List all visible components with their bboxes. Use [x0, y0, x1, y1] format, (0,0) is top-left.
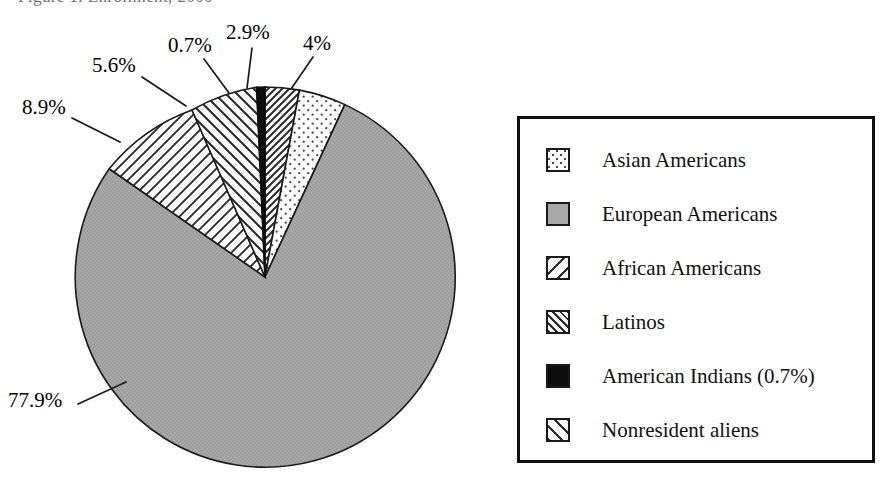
legend-label-asian-americans: Asian Americans — [602, 148, 746, 173]
legend-list: Asian Americans European Americans Afric… — [520, 119, 872, 460]
legend-label-nonresident-aliens: Nonresident aliens — [602, 418, 759, 443]
legend-label-american-indians: American Indians (0.7%) — [602, 364, 815, 389]
leader-line-latinos — [247, 48, 252, 88]
legend-label-latinos: Latinos — [602, 310, 665, 335]
legend-item-latinos: Latinos — [520, 295, 872, 349]
swatch-dotted-icon — [546, 148, 570, 172]
swatch-backslash-hatch-icon — [546, 256, 570, 280]
leader-line-african — [142, 77, 186, 106]
swatch-dense-forward-hatch-icon — [546, 310, 570, 334]
legend-label-african-americans: African Americans — [602, 256, 761, 281]
label-american-indians-percent: 0.7% — [168, 35, 212, 56]
legend-item-american-indians: American Indians (0.7%) — [520, 349, 872, 403]
label-asian-percent: 4% — [303, 33, 331, 54]
legend-item-african-americans: African Americans — [520, 241, 872, 295]
legend-item-nonresident-aliens: Nonresident aliens — [520, 403, 872, 457]
label-latinos-percent: 2.9% — [226, 22, 270, 43]
leader-line-american-indians — [204, 59, 229, 93]
label-european-percent: 77.9% — [8, 390, 62, 411]
label-nonresident-percent: 8.9% — [22, 97, 66, 118]
swatch-solid-gray-icon — [546, 202, 570, 226]
swatch-medium-forward-hatch-icon — [546, 418, 570, 442]
figure-container: Figure 1. Enrollment, 2000 — [0, 0, 893, 482]
legend: Asian Americans European Americans Afric… — [517, 116, 875, 463]
legend-item-asian-americans: Asian Americans — [520, 133, 872, 187]
legend-label-european-americans: European Americans — [602, 202, 778, 227]
leader-line-asian — [291, 57, 313, 89]
legend-item-european-americans: European Americans — [520, 187, 872, 241]
label-african-percent: 5.6% — [92, 55, 136, 76]
leader-line-nonresident — [72, 118, 120, 142]
swatch-solid-black-icon — [546, 364, 570, 388]
